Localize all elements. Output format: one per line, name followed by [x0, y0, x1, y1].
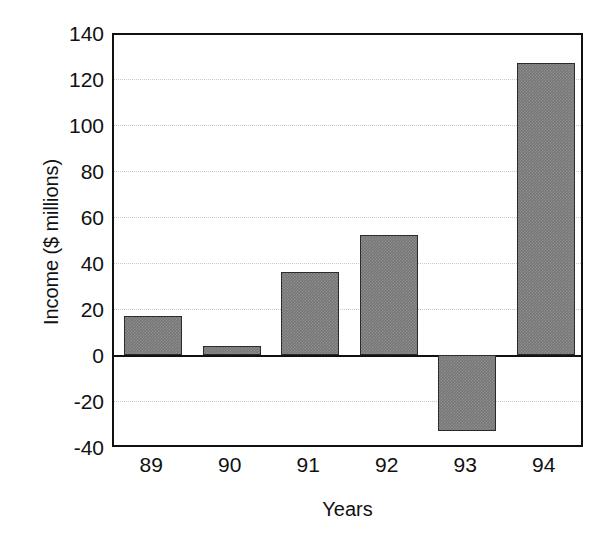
y-axis-tick-label: 60 [81, 207, 104, 228]
x-axis-tick-label: 92 [375, 452, 398, 478]
x-axis-tick-label: 89 [140, 452, 163, 478]
y-axis-tick-label: 20 [81, 299, 104, 320]
x-axis-tick-label: 93 [454, 452, 477, 478]
x-axis-title: Years [112, 498, 583, 521]
bar [203, 346, 261, 355]
x-axis-tick-label: 90 [218, 452, 241, 478]
x-axis-tick-label: 91 [297, 452, 320, 478]
y-axis-tick-label: 120 [69, 69, 104, 90]
y-axis-tick-label: 40 [81, 253, 104, 274]
y-axis-tick-label: -40 [74, 437, 104, 458]
bar [124, 316, 182, 355]
y-axis-tick-label: 0 [92, 345, 104, 366]
y-axis-tick-label: 80 [81, 161, 104, 182]
x-axis-tick-labels: 899091929394 [112, 452, 583, 486]
plot-area [112, 33, 583, 447]
y-axis-tick-label: 140 [69, 23, 104, 44]
y-axis-tick-label: -20 [74, 391, 104, 412]
x-axis-tick-label: 94 [532, 452, 555, 478]
bar [517, 63, 575, 355]
y-axis-tick-labels: 140120100806040200-20-40 [44, 33, 112, 447]
bar [281, 272, 339, 355]
bars-layer [114, 35, 581, 445]
bar-chart: Income ($ millions) 140120100806040200-2… [0, 0, 611, 550]
bar [438, 355, 496, 431]
y-axis-tick-label: 100 [69, 115, 104, 136]
bar [360, 235, 418, 355]
